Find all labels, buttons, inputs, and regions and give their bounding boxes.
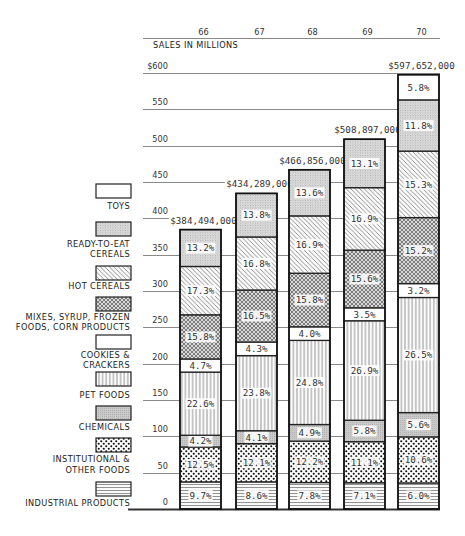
y-tick-label-550: 550 (152, 97, 168, 107)
legend-label: READY-TO-EAT (67, 239, 131, 249)
segment-chemicals: 4.9% (289, 425, 330, 442)
segment-industrial-products: 7.8% (289, 483, 330, 509)
segment-institutional-other-foods: 10.6% (398, 437, 439, 483)
y-tick-label-600: $600 (147, 61, 168, 71)
segment-percent-label: 15.8% (296, 294, 324, 305)
segment-hot-cereals: 15.3% (398, 151, 439, 217)
segment-percent-label: 16.9% (296, 239, 324, 250)
segment-chemicals: 5.6% (398, 413, 439, 437)
segment-percent-label: 4.0% (298, 328, 321, 339)
segment-percent-label: 3.5% (353, 309, 376, 320)
segment-percent-label: 11.8% (405, 120, 433, 131)
year-label-70: 70 (416, 27, 426, 37)
y-tick-label-100: 100 (152, 424, 168, 434)
segment-pet-foods: 24.8% (289, 340, 330, 424)
segment-pet-foods: 22.6% (180, 372, 221, 435)
segment-percent-label: 15.2% (405, 245, 433, 256)
segment-industrial-products: 9.7% (180, 482, 221, 509)
segment-percent-label: 12.1% (243, 457, 271, 468)
segment-percent-label: 26.5% (405, 349, 433, 360)
legend-label: CRACKERS (83, 360, 130, 370)
segment-percent-label: 4.7% (189, 360, 212, 371)
segment-hot-cereals: 16.9% (344, 188, 385, 250)
legend-label: CEREALS (90, 249, 130, 259)
legend-item-cookies-crackers: COOKIES &CRACKERS (81, 335, 131, 370)
segment-industrial-products: 8.6% (236, 482, 277, 509)
segment-percent-label: 7.8% (298, 490, 321, 501)
segment-ready-to-eat-cereals: 13.2% (180, 230, 221, 267)
segment-ready-to-eat-cereals: 13.8% (236, 193, 277, 237)
segment-cookies-crackers: 4.7% (180, 359, 221, 372)
segment-percent-label: 3.2% (407, 285, 430, 296)
segment-institutional-other-foods: 11.1% (344, 442, 385, 483)
segment-toys: 5.8% (398, 75, 439, 100)
segment-institutional-other-foods: 12.1% (236, 444, 277, 482)
bar-67: 8.6%12.1%4.1%23.8%4.3%16.5%16.8%13.8%$43… (225, 178, 294, 509)
bar-70: 6.0%10.6%5.6%26.5%3.2%15.2%15.3%11.8%5.8… (387, 60, 456, 509)
legend-swatch (96, 297, 131, 311)
y-tick-label-150: 150 (152, 388, 168, 398)
segment-percent-label: 8.6% (245, 490, 268, 501)
legend-item-pet-foods: PET FOODS (80, 372, 131, 400)
segment-percent-label: 7.1% (353, 490, 376, 501)
segment-percent-label: 15.3% (405, 179, 433, 190)
bar-total-label: $466,856,000 (279, 155, 345, 166)
stacked-bar-chart: $600550500450400350300250200150100500 SA… (0, 0, 465, 536)
segment-hot-cereals: 16.8% (236, 237, 277, 290)
bar-total-label: $384,494,000 (170, 215, 236, 226)
segment-institutional-other-foods: 12.5% (180, 447, 221, 482)
segment-percent-label: 13.2% (187, 242, 215, 253)
legend-label: TOYS (106, 201, 130, 211)
legend-item-ready-to-eat-cereals: READY-TO-EATCEREALS (67, 222, 131, 259)
segment-chemicals: 4.2% (180, 435, 221, 447)
legend-item-mixes-syrup-frozen-foods-corn-products: MIXES, SYRUP, FROZENFOODS, CORN PRODUCTS (16, 297, 131, 332)
legend-swatch (96, 482, 131, 496)
year-label-66: 66 (198, 27, 208, 37)
segment-percent-label: 15.6% (351, 273, 379, 284)
segment-percent-label: 5.8% (353, 425, 376, 436)
legend-item-hot-cereals: HOT CEREALS (68, 266, 131, 291)
y-tick-label-0: 0 (163, 497, 168, 507)
segment-percent-label: 13.8% (243, 209, 271, 220)
segment-ready-to-eat-cereals: 13.1% (344, 139, 385, 187)
segment-percent-label: 11.1% (351, 457, 379, 468)
bar-69: 7.1%11.1%5.8%26.9%3.5%15.6%16.9%13.1%$50… (333, 124, 402, 509)
segment-mixes-syrup-frozen-foods-corn-products: 15.8% (180, 315, 221, 359)
legend-label: FOODS, CORN PRODUCTS (16, 322, 130, 332)
legend: TOYSREADY-TO-EATCEREALSHOT CEREALSMIXES,… (16, 184, 131, 508)
y-tick-label-450: 450 (152, 170, 168, 180)
legend-swatch (96, 222, 131, 236)
segment-cookies-crackers: 3.2% (398, 284, 439, 298)
segment-percent-label: 22.6% (187, 398, 215, 409)
segment-percent-label: 12.2% (296, 456, 324, 467)
segment-industrial-products: 7.1% (344, 483, 385, 509)
legend-label: COOKIES & (81, 350, 131, 360)
segment-percent-label: 6.0% (407, 490, 430, 501)
segment-percent-label: 26.9% (351, 365, 379, 376)
segment-industrial-products: 6.0% (398, 483, 439, 509)
legend-label: HOT CEREALS (68, 281, 130, 291)
bar-68: 7.8%12.2%4.9%24.8%4.0%15.8%16.9%13.6%$46… (278, 155, 347, 509)
legend-label: OTHER FOODS (65, 465, 130, 475)
legend-item-toys: TOYS (96, 184, 131, 211)
segment-mixes-syrup-frozen-foods-corn-products: 16.5% (236, 290, 277, 342)
segment-mixes-syrup-frozen-foods-corn-products: 15.6% (344, 250, 385, 308)
segment-mixes-syrup-frozen-foods-corn-products: 15.2% (398, 218, 439, 284)
segment-hot-cereals: 17.3% (180, 266, 221, 314)
legend-label: INDUSTRIAL PRODUCTS (25, 498, 130, 508)
segment-percent-label: 4.9% (298, 427, 321, 438)
legend-swatch (96, 184, 131, 198)
segment-percent-label: 4.1% (245, 432, 268, 443)
segment-percent-label: 24.8% (296, 377, 324, 388)
y-tick-label-200: 200 (152, 352, 168, 362)
segment-cookies-crackers: 4.0% (289, 327, 330, 341)
segment-percent-label: 13.6% (296, 187, 324, 198)
y-tick-label-250: 250 (152, 315, 168, 325)
segment-institutional-other-foods: 12.2% (289, 441, 330, 482)
segment-cookies-crackers: 4.3% (236, 342, 277, 356)
segment-mixes-syrup-frozen-foods-corn-products: 15.8% (289, 273, 330, 327)
legend-label: PET FOODS (80, 390, 130, 400)
segment-percent-label: 16.5% (243, 310, 271, 321)
y-tick-label-50: 50 (158, 461, 168, 471)
y-axis-title: SALES IN MILLIONS (153, 40, 238, 50)
